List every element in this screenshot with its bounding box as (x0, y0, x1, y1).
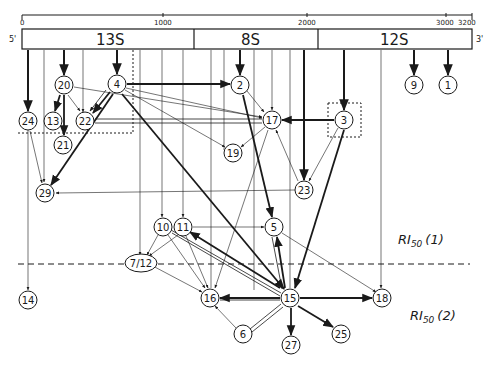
five-prime-label: 5' (9, 35, 16, 44)
protein-node-label: 23 (298, 185, 311, 196)
three-prime-label: 3' (476, 35, 483, 44)
tick-2000: 2000 (298, 19, 316, 27)
scale-ruler: 0 1000 2000 3000 3200 (20, 13, 476, 27)
protein-node-label: 25 (335, 329, 348, 340)
protein-node-6: 6 (234, 325, 252, 343)
protein-node-label: 13 (47, 116, 60, 127)
protein-node-5: 5 (265, 218, 283, 236)
assembly-map-diagram: 0 1000 2000 3000 3200 13S 8S 12S 5' 3' (0, 0, 485, 365)
protein-node-13: 13 (44, 112, 62, 130)
protein-node-label: 1 (445, 80, 451, 91)
protein-node-2: 2 (231, 76, 249, 94)
protein-node-label: 29 (39, 188, 52, 199)
protein-node-4: 4 (108, 75, 126, 93)
protein-node-23: 23 (295, 181, 313, 199)
protein-node-14: 14 (19, 291, 37, 309)
protein-node-18: 18 (373, 289, 391, 307)
protein-node-1: 1 (439, 76, 457, 94)
protein-node-25: 25 (332, 325, 350, 343)
protein-node-label: 9 (411, 80, 417, 91)
protein-node-7-12: 7/12 (125, 254, 157, 272)
protein-node-16: 16 (201, 289, 219, 307)
protein-node-label: 2 (237, 80, 243, 91)
binding-lines (28, 50, 381, 290)
segment-13s-label: 13S (96, 31, 125, 49)
protein-node-22: 22 (76, 112, 94, 130)
protein-node-15: 15 (281, 289, 299, 307)
protein-node-label: 4 (114, 79, 120, 90)
protein-node-label: 16 (204, 293, 217, 304)
protein-node-10: 10 (154, 218, 172, 236)
level-label-2: RI50(2) (410, 308, 456, 325)
rna-bar: 13S 8S 12S 5' 3' (9, 29, 483, 49)
protein-node-label: 5 (271, 222, 277, 233)
protein-node-27: 27 (282, 336, 300, 354)
protein-node-29: 29 (36, 184, 54, 202)
protein-node-11: 11 (174, 218, 192, 236)
protein-node-3: 3 (335, 111, 353, 129)
protein-node-19: 19 (224, 144, 242, 162)
svg-text:RI50(1): RI50(1) (398, 232, 444, 249)
protein-node-9: 9 (405, 76, 423, 94)
protein-node-label: 22 (79, 116, 92, 127)
protein-node-17: 17 (263, 111, 281, 129)
protein-node-label: 15 (284, 293, 297, 304)
protein-node-21: 21 (54, 136, 72, 154)
level-label-1: RI50(1) (398, 232, 444, 249)
protein-node-20: 20 (55, 76, 73, 94)
segment-12s-label: 12S (380, 31, 409, 49)
segment-8s-label: 8S (241, 31, 260, 49)
protein-node-label: 24 (22, 116, 35, 127)
tick-1000: 1000 (154, 19, 172, 27)
protein-node-label: 14 (22, 295, 35, 306)
protein-node-label: 11 (177, 222, 190, 233)
tick-3200: 3200 (458, 19, 476, 27)
protein-node-24: 24 (19, 112, 37, 130)
protein-node-label: 10 (157, 222, 170, 233)
tick-0: 0 (20, 19, 24, 27)
protein-node-label: 20 (58, 80, 71, 91)
svg-text:RI50(2): RI50(2) (410, 308, 456, 325)
protein-node-label: 17 (266, 115, 279, 126)
protein-node-label: 7/12 (130, 258, 152, 269)
protein-node-label: 27 (285, 340, 298, 351)
protein-nodes: 19204224132217321192923101157/1214161518… (19, 75, 457, 354)
protein-node-label: 21 (57, 140, 70, 151)
protein-node-label: 3 (341, 115, 347, 126)
protein-node-label: 18 (376, 293, 389, 304)
protein-node-label: 19 (227, 148, 240, 159)
tick-3000: 3000 (436, 19, 454, 27)
protein-node-label: 6 (240, 329, 246, 340)
